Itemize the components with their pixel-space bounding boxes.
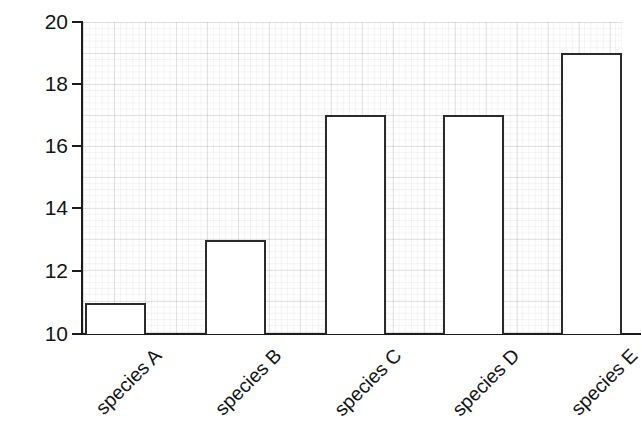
y-axis-title-container: Mean number of prickles bbox=[6, 18, 40, 352]
x-axis-label-species-b: species B bbox=[164, 344, 286, 447]
x-axis-label-species-c: species C bbox=[284, 344, 406, 447]
y-tick-label-14: 14 bbox=[22, 197, 68, 218]
y-tick-mark-14 bbox=[72, 207, 82, 209]
bar-species-e bbox=[561, 53, 622, 334]
bar-chart: Mean number of prickles 20 18 16 14 12 1… bbox=[0, 0, 642, 447]
y-tick-mark-10 bbox=[72, 333, 82, 335]
y-tick-mark-16 bbox=[72, 145, 82, 147]
y-tick-label-20: 20 bbox=[22, 11, 68, 32]
y-tick-mark-12 bbox=[72, 270, 82, 272]
bar-species-a bbox=[85, 303, 146, 334]
y-tick-mark-18 bbox=[72, 83, 82, 85]
y-tick-label-16: 16 bbox=[22, 135, 68, 156]
y-tick-label-12: 12 bbox=[22, 260, 68, 281]
y-axis-line bbox=[81, 21, 83, 335]
y-tick-label-18: 18 bbox=[22, 73, 68, 94]
y-tick-label-10: 10 bbox=[22, 323, 68, 344]
y-tick-mark-20 bbox=[72, 21, 82, 23]
bar-species-d bbox=[443, 115, 504, 334]
x-axis-label-species-d: species D bbox=[402, 344, 524, 447]
x-axis-label-species-e: species E bbox=[520, 344, 642, 447]
x-axis-label-species-a: species A bbox=[44, 344, 166, 447]
bar-species-c bbox=[325, 115, 386, 334]
bar-species-b bbox=[205, 240, 266, 334]
